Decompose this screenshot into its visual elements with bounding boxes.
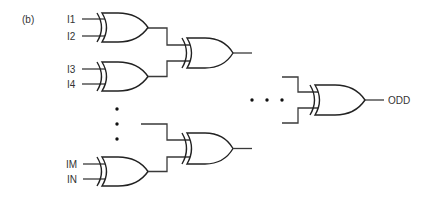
ellipsis-dot (250, 98, 253, 101)
ellipsis-dot (115, 107, 118, 110)
horizontal-ellipsis (250, 98, 283, 101)
ellipsis-dot (280, 98, 283, 101)
ellipsis-dot (115, 122, 118, 125)
xor-gate-final: ODD (282, 77, 410, 123)
xor-gate-level2-bottom (141, 124, 252, 172)
input-label-i4: I4 (67, 79, 76, 90)
xor-gate-body (102, 62, 148, 91)
xor-extra-arc (97, 62, 102, 91)
input-label-in: IN (67, 174, 77, 185)
input-label-i2: I2 (67, 31, 76, 42)
xor-gate-im-in: IM IN (66, 157, 148, 186)
xor-gate-body (187, 133, 233, 164)
panel-label: (b) (22, 14, 34, 25)
wire-ellipsis-to-level2 (141, 124, 193, 140)
input-label-im: IM (66, 159, 77, 170)
xor-parity-tree-diagram: (b) I1 I2 I3 I4 IM IN (0, 0, 431, 198)
xor-gate-body (187, 38, 233, 68)
xor-gate-level2-top (148, 28, 252, 77)
xor-extra-arc (182, 133, 187, 164)
xor-gate-body (102, 13, 148, 42)
input-label-i1: I1 (67, 14, 76, 25)
xor-extra-arc (97, 157, 102, 186)
ellipsis-dot (115, 137, 118, 140)
xor-gate-i1-i2: I1 I2 (67, 13, 148, 42)
wire-gate3-to-level2 (148, 61, 193, 77)
vertical-ellipsis (115, 107, 118, 140)
xor-gate-body (315, 85, 365, 115)
output-label-odd: ODD (388, 95, 410, 106)
input-label-i3: I3 (67, 64, 76, 75)
xor-extra-arc (97, 13, 102, 42)
xor-gate-body (102, 157, 148, 186)
wire-gate1-to-level2 (148, 28, 193, 45)
xor-extra-arc (310, 85, 315, 115)
ellipsis-dot (265, 98, 268, 101)
xor-gate-i3-i4: I3 I4 (67, 62, 148, 91)
xor-extra-arc (182, 38, 187, 68)
